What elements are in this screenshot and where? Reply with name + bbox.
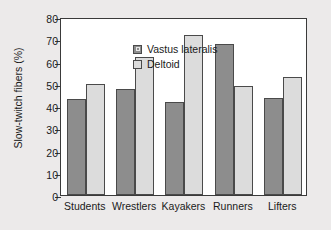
y-axis-tick-label: 50: [46, 79, 58, 93]
bar: [116, 89, 135, 195]
chart-figure: Slow-twitch fibers (%) 01020304050607080…: [0, 0, 331, 230]
x-axis-label: Lifters: [258, 200, 307, 212]
bar: [86, 84, 105, 195]
bar-group: [259, 19, 308, 195]
y-axis-tick-label: 60: [46, 57, 58, 71]
bar: [215, 44, 234, 195]
y-axis-tick-label: 70: [46, 34, 58, 48]
chart-legend: Vastus lateralisDeltoid: [133, 43, 217, 70]
y-axis-title-label: Slow-twitch fibers (%): [12, 48, 24, 149]
bar: [135, 57, 154, 195]
y-axis-tick-label: 40: [46, 101, 58, 115]
legend-item: Deltoid: [133, 58, 217, 70]
x-axis-label: Wrestlers: [109, 200, 158, 212]
legend-swatch: [133, 60, 142, 69]
y-axis-tick-label: 10: [46, 168, 58, 182]
x-axis-label: Students: [60, 200, 109, 212]
bar: [234, 86, 253, 195]
legend-item: Vastus lateralis: [133, 43, 217, 55]
bar: [264, 98, 283, 195]
legend-label: Vastus lateralis: [147, 43, 217, 55]
bar: [283, 77, 302, 195]
bar: [165, 102, 184, 195]
legend-swatch: [133, 45, 142, 54]
bar-group: [61, 19, 110, 195]
y-axis-tick-label: 30: [46, 123, 58, 137]
plot-area: 01020304050607080 Vastus lateralisDeltoi…: [60, 18, 307, 196]
x-axis-label: Runners: [208, 200, 257, 212]
y-axis-tick-label: 0: [52, 190, 58, 204]
bar: [67, 99, 86, 195]
y-axis-tick-label: 80: [46, 12, 58, 26]
legend-label: Deltoid: [147, 58, 180, 70]
x-axis-label: Kayakers: [159, 200, 208, 212]
y-axis-title: Slow-twitch fibers (%): [9, 0, 27, 196]
y-axis-tick-label: 20: [46, 146, 58, 160]
